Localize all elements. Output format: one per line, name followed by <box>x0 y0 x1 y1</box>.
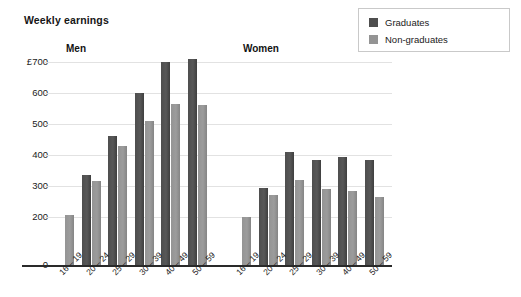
y-axis-tick-label: 200 <box>6 211 48 222</box>
bar <box>198 105 207 265</box>
legend-swatch-non-graduates <box>369 35 378 44</box>
legend-item-graduates: Graduates <box>369 14 509 31</box>
bar <box>92 181 101 265</box>
y-axis-tick-label: 600 <box>6 87 48 98</box>
group-header-women: Women <box>243 43 279 54</box>
bar <box>82 175 91 265</box>
gridline <box>44 62 392 63</box>
bar <box>135 93 144 265</box>
gridline <box>44 124 392 125</box>
bar <box>161 62 170 265</box>
bar <box>338 157 347 265</box>
gridline <box>44 93 392 94</box>
bar <box>108 136 117 265</box>
bar <box>118 146 127 265</box>
bar <box>171 104 180 265</box>
bar <box>365 160 374 265</box>
bar <box>188 59 197 265</box>
legend-label-graduates: Graduates <box>385 18 429 27</box>
legend-label-non-graduates: Non-graduates <box>385 35 448 44</box>
legend-item-non-graduates: Non-graduates <box>369 31 509 48</box>
y-axis-tick-label: 300 <box>6 180 48 191</box>
y-axis-tick-label: £700 <box>6 56 48 67</box>
bar <box>295 180 304 265</box>
chart-container: Weekly earnings Graduates Non-graduates … <box>0 0 521 297</box>
bar <box>285 152 294 265</box>
y-axis: 0200300400500600£700 <box>0 0 48 297</box>
legend-swatch-graduates <box>369 18 378 27</box>
group-header-men: Men <box>66 43 86 54</box>
chart-legend: Graduates Non-graduates <box>358 8 510 52</box>
bar <box>145 121 154 265</box>
y-axis-tick-label: 400 <box>6 149 48 160</box>
bar <box>259 188 268 265</box>
bar <box>312 160 321 265</box>
y-axis-tick-label: 500 <box>6 118 48 129</box>
